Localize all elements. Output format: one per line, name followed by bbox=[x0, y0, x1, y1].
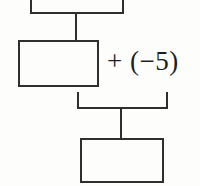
bracket-crossbar bbox=[77, 107, 168, 109]
connector-bracket-to-result bbox=[120, 108, 122, 139]
operation-label: + (−5) bbox=[107, 48, 179, 75]
result-box bbox=[80, 138, 164, 183]
middle-box bbox=[18, 40, 99, 87]
connector-top-to-middle bbox=[75, 13, 77, 41]
diagram-canvas: + (−5) bbox=[0, 0, 200, 186]
top-box bbox=[30, 0, 124, 14]
